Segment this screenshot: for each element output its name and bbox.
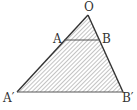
diagram-svg: O A B A′ B′: [0, 0, 137, 110]
label-b-prime: B′: [122, 91, 134, 105]
triangle-diagram: O A B A′ B′: [0, 0, 137, 110]
label-b: B: [102, 32, 111, 46]
label-a: A: [52, 32, 62, 46]
label-a-prime: A′: [2, 91, 15, 105]
hatched-triangle-region: [17, 15, 123, 92]
label-o: O: [84, 0, 94, 14]
